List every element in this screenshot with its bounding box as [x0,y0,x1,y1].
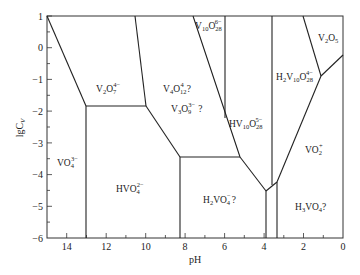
label-h3vo4: H3VO4? [295,202,326,213]
label-v3o9: V3O93−? [171,101,202,115]
y-axis-ticks [47,16,52,222]
y-tick-label: −2 [32,106,43,117]
x-tick-label: 14 [62,241,72,252]
x-tick-labels: 14 12 10 8 6 4 2 0 [62,241,346,252]
x-tick-label: 4 [262,241,267,252]
x-tick-label: 12 [101,241,111,252]
label-vo2: VO2+ [305,142,323,156]
x-tick-label: 10 [141,241,151,252]
label-v2o5: V2O5 [318,33,338,44]
x-axis-ticks [67,233,324,238]
label-h2v10o28: H2V10O284− [276,69,313,83]
y-tick-label: −4 [32,169,43,180]
y-tick-label: −3 [32,138,43,149]
y-axis-label: lgCV [14,118,27,137]
y-tick-labels: 1 0 −1 −2 −3 −4 −5 −6 [32,11,43,244]
label-v2o7: V2O74− [96,81,121,95]
label-h2vo4: H2VO4−? [203,192,236,206]
label-hv10o28: HV10O285− [229,116,263,130]
predominance-diagram: 1 0 −1 −2 −3 −4 −5 −6 14 12 10 8 6 4 2 0… [0,0,360,275]
label-vo4: VO43− [57,155,78,169]
y-tick-label: −6 [32,233,43,244]
label-v10o28: V10O286− [195,18,222,32]
x-tick-label: 0 [341,241,346,252]
x-tick-label: 2 [301,241,306,252]
x-tick-label: 8 [183,241,188,252]
y-tick-label: 0 [38,42,43,53]
species-labels: V2O74− V4O124? V3O93−? V10O286− V2O5 H2V… [57,18,338,213]
y-tick-label: 1 [38,11,43,22]
svg-text:lgCV: lgCV [14,118,27,137]
x-axis-label: pH [189,254,201,265]
x-tick-label: 6 [222,241,227,252]
y-tick-label: −1 [32,74,43,85]
y-tick-label: −5 [32,201,43,212]
label-hvo4: HVO42− [116,181,144,195]
label-v4o12: V4O124? [163,81,191,95]
